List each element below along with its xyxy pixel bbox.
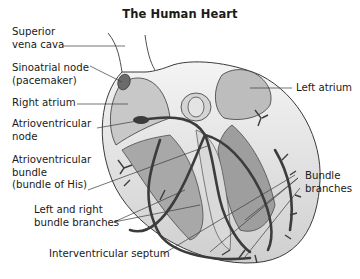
label-left-atrium: Left atrium [296,82,352,95]
label-superior-vena-cava: Superior vena cava [12,26,64,51]
label-right-atrium: Right atrium [12,97,76,110]
label-sinoatrial-node: Sinoatrial node (pacemaker) [12,62,89,87]
label-left-right-bundle-branches: Left and right bundle branches [34,204,119,229]
label-atrioventricular-bundle: Atrioventricular bundle (bundle of His) [12,154,91,192]
atrioventricular-node [133,116,149,124]
label-bundle-branches: Bundle branches [305,170,352,195]
label-atrioventricular-node: Atrioventricular node [12,118,91,143]
label-interventricular-septum: Interventricular septum [49,248,170,261]
superior-vena-cava [108,33,155,72]
